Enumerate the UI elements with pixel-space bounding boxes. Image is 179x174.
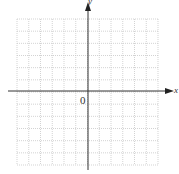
y-axis-label: y — [88, 0, 92, 6]
origin-label: 0 — [80, 94, 86, 106]
coordinate-grid — [0, 0, 179, 174]
x-axis-label: x — [174, 85, 178, 95]
x-axis-arrow-icon — [165, 88, 174, 94]
